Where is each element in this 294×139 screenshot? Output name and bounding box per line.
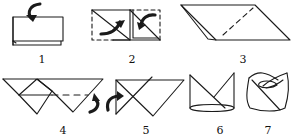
curved-arrow-down-left-icon bbox=[137, 15, 155, 30]
step-4-label: 4 bbox=[57, 125, 69, 136]
step-1-label: 1 bbox=[36, 54, 48, 65]
step-4-figure bbox=[3, 79, 103, 114]
step-3-figure bbox=[181, 5, 290, 40]
step-1-figure bbox=[13, 4, 63, 45]
step-6-label: 6 bbox=[214, 125, 226, 136]
step-2-label: 2 bbox=[126, 54, 138, 65]
step-7-figure bbox=[247, 73, 289, 111]
folding-diagram bbox=[0, 0, 294, 139]
step-2-figure bbox=[92, 10, 160, 40]
step-5-label: 5 bbox=[140, 125, 152, 136]
step-6-figure bbox=[190, 73, 234, 112]
curved-arrow-turn-icon bbox=[90, 93, 100, 112]
step-7-label: 7 bbox=[262, 125, 274, 136]
step-5-figure bbox=[107, 77, 184, 116]
step-3-label: 3 bbox=[237, 54, 249, 65]
